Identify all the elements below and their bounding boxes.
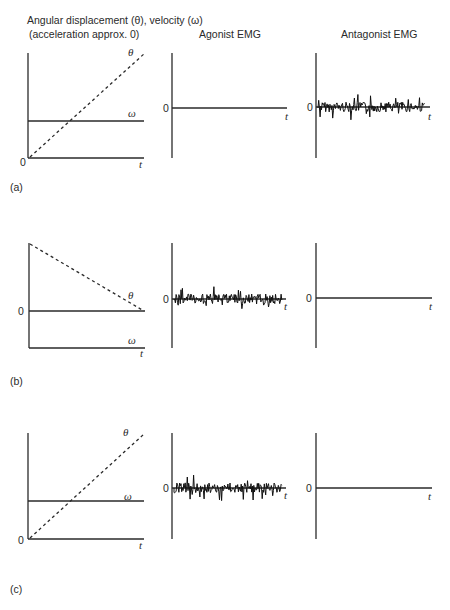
time-axis-label: t	[428, 110, 431, 122]
row-c-agonist-emg-plot	[172, 433, 286, 539]
theta-line	[30, 244, 144, 311]
time-axis-label: t	[429, 300, 432, 312]
time-axis-label: t	[140, 347, 143, 359]
zero-label: 0	[163, 293, 169, 305]
theta-line	[30, 434, 144, 538]
zero-label: 0	[163, 482, 169, 494]
time-axis-label: t	[284, 300, 287, 312]
row-a-agonist-emg-plot	[172, 53, 287, 158]
theta-label: θ	[128, 289, 133, 301]
panel-label-a: (a)	[10, 181, 23, 193]
omega-label: ω	[128, 107, 136, 119]
row-b-antagonist-emg-plot	[316, 243, 432, 348]
row-c-kinematics-plot	[28, 433, 144, 539]
zero-label: 0	[306, 292, 312, 304]
zero-label: 0	[307, 101, 313, 113]
panel-label-c: (c)	[10, 583, 22, 595]
theta-label: θ	[123, 426, 128, 438]
omega-label: ω	[124, 490, 132, 502]
zero-label: 0	[306, 482, 312, 494]
theta-label: θ	[128, 46, 133, 58]
zero-label: 0	[163, 102, 169, 114]
origin-label: 0	[20, 156, 26, 168]
row-a-kinematics-plot	[28, 53, 145, 158]
panel-label-b: (b)	[10, 375, 23, 387]
diagram-canvas	[0, 0, 450, 610]
theta-line	[30, 53, 145, 157]
row-c-antagonist-emg-plot	[316, 433, 432, 539]
origin-label: 0	[18, 534, 24, 546]
row-b-agonist-emg-plot	[172, 243, 286, 348]
row-a-antagonist-emg-plot	[316, 53, 430, 158]
time-axis-label: t	[139, 539, 142, 551]
time-axis-label: t	[139, 158, 142, 170]
omega-label: ω	[128, 334, 136, 346]
emg-signal	[318, 95, 424, 120]
emg-signal	[174, 287, 282, 309]
time-axis-label: t	[284, 489, 287, 501]
time-axis-label: t	[428, 490, 431, 502]
zero-label: 0	[18, 305, 24, 317]
time-axis-label: t	[285, 110, 288, 122]
